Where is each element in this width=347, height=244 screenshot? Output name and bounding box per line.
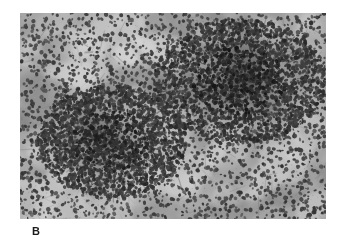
micrograph-canvas xyxy=(20,13,326,219)
figure-panel: B xyxy=(0,0,347,244)
micrograph-image xyxy=(20,13,326,219)
panel-label: B xyxy=(32,225,40,237)
